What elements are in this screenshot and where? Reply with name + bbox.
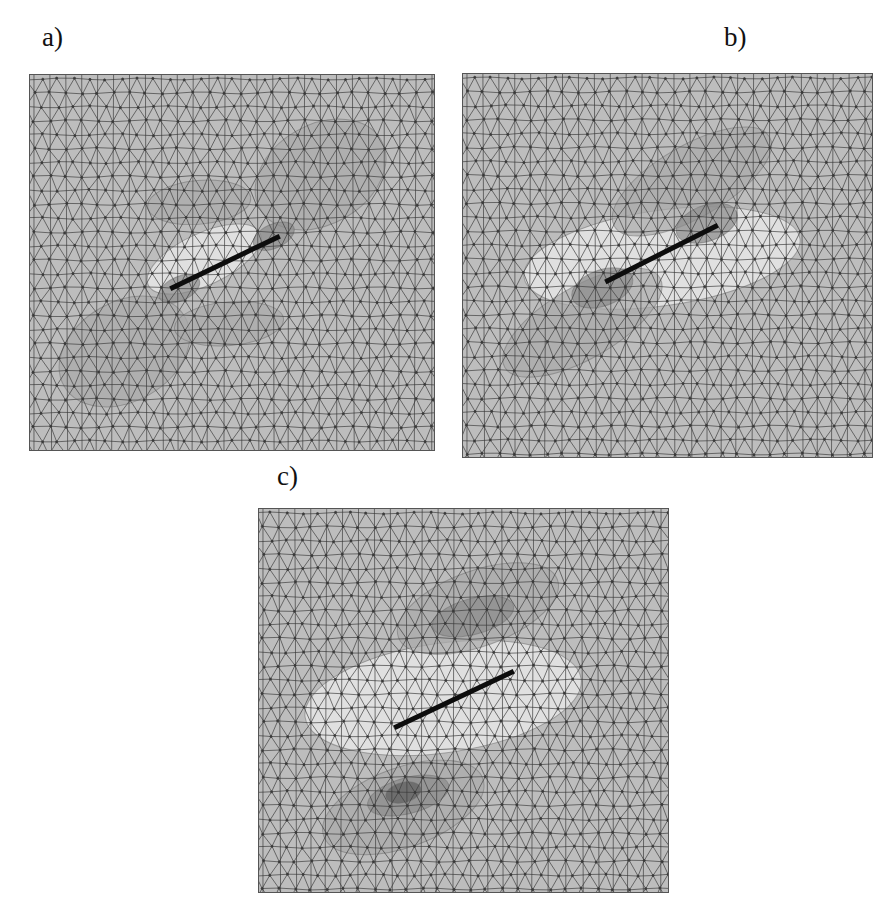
- panel-a-mesh-plot: [29, 74, 435, 451]
- mesh-svg: [30, 75, 434, 450]
- panel-b-mesh-plot: [462, 73, 873, 458]
- panel-label-c: c): [277, 463, 298, 490]
- mesh-svg: [463, 74, 872, 457]
- panel-label-a: a): [42, 24, 63, 51]
- panel-c-mesh-plot: [258, 508, 669, 893]
- mesh-svg: [259, 509, 668, 892]
- panel-label-b: b): [724, 24, 747, 51]
